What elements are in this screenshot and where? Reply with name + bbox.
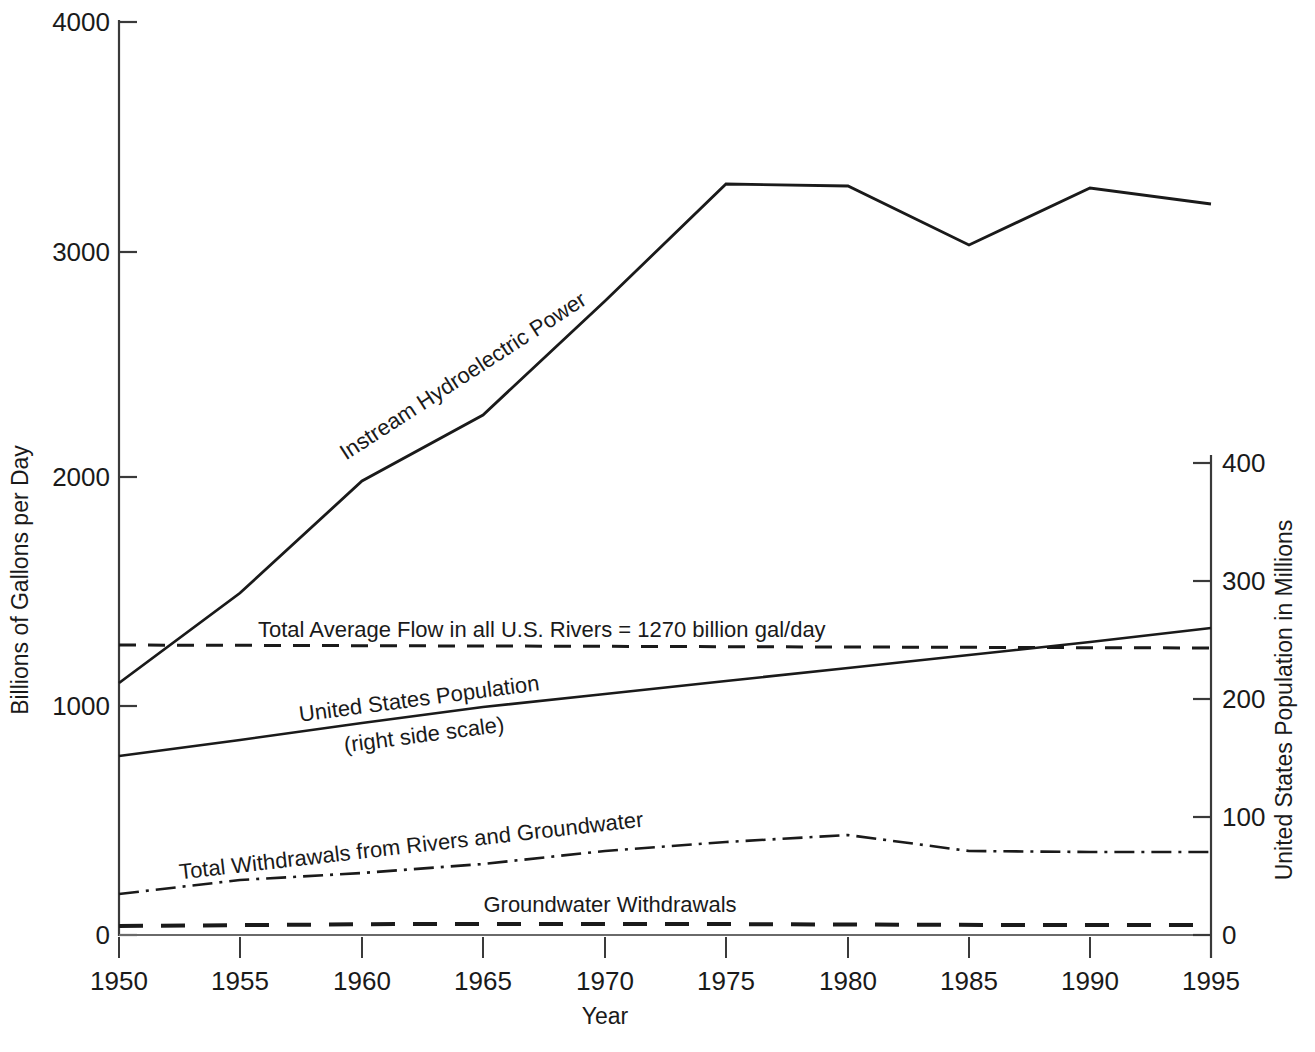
y-left-tick-4000: 4000 <box>52 7 110 37</box>
y-right-tick-300: 300 <box>1222 566 1265 596</box>
x-tick-1995: 1995 <box>1182 966 1240 996</box>
x-tick-1975: 1975 <box>697 966 755 996</box>
y-right-tick-200: 200 <box>1222 684 1265 714</box>
y-right-tick-0: 0 <box>1222 920 1236 950</box>
x-tick-1955: 1955 <box>211 966 269 996</box>
y-left-tick-1000: 1000 <box>52 691 110 721</box>
series-label-groundwater-withdrawals: Groundwater Withdrawals <box>483 892 736 917</box>
x-tick-1965: 1965 <box>454 966 512 996</box>
y-left-tick-3000: 3000 <box>52 237 110 267</box>
x-tick-1985: 1985 <box>940 966 998 996</box>
chart-figure: 4000 3000 2000 1000 0 400 300 200 100 0 … <box>0 0 1315 1052</box>
x-axis-title: Year <box>582 1003 629 1029</box>
x-tick-1980: 1980 <box>819 966 877 996</box>
y-right-tick-100: 100 <box>1222 802 1265 832</box>
y-left-tick-2000: 2000 <box>52 462 110 492</box>
x-tick-1990: 1990 <box>1061 966 1119 996</box>
x-tick-1970: 1970 <box>576 966 634 996</box>
y-left-axis-title: Billions of Gallons per Day <box>7 445 33 715</box>
series-label-total-average-flow: Total Average Flow in all U.S. Rivers = … <box>258 617 826 642</box>
y-right-axis-title: United States Population in Millions <box>1271 520 1297 881</box>
y-left-tick-0: 0 <box>96 920 110 950</box>
x-tick-1960: 1960 <box>333 966 391 996</box>
x-tick-1950: 1950 <box>90 966 148 996</box>
y-right-tick-400: 400 <box>1222 448 1265 478</box>
chart-svg: 4000 3000 2000 1000 0 400 300 200 100 0 … <box>0 0 1315 1052</box>
